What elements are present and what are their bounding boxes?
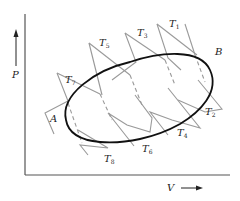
right-arrow-icon — [196, 186, 203, 191]
t1-label: T1 — [169, 18, 180, 30]
t5-label: T5 — [99, 37, 110, 49]
up-arrow-icon — [14, 29, 19, 37]
t6-label: T6 — [142, 143, 153, 155]
isotherm-t5-dash — [130, 75, 142, 105]
t4-label: T4 — [177, 127, 188, 139]
isotherm-t4 — [150, 88, 200, 135]
isotherms — [45, 24, 222, 155]
v-axis-label: V — [167, 182, 176, 193]
point-a-label: A — [49, 113, 57, 124]
t8-label: T8 — [104, 153, 115, 165]
axes — [14, 14, 231, 191]
isotherm-t5-top — [89, 43, 130, 75]
isotherm-t1 — [157, 24, 181, 70]
pv-diagram: P V A B T1 T2 T3 T4 T5 T6 T7 T8 — [0, 0, 240, 201]
t7-label: T7 — [65, 74, 76, 86]
t2-label: T2 — [205, 106, 216, 118]
p-axis-label: P — [11, 69, 19, 80]
isotherm-t3 — [112, 33, 136, 80]
isotherm-t1-right — [185, 24, 195, 55]
t3-label: T3 — [137, 27, 148, 39]
point-b-label: B — [214, 46, 222, 57]
isotherm-t5-left — [89, 43, 102, 95]
